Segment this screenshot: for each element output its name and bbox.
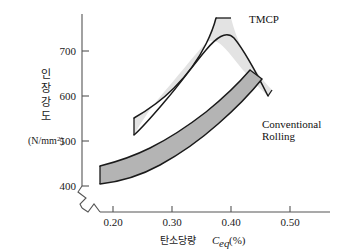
x-tick-label: 0.40 bbox=[221, 216, 241, 228]
y-axis-title-char-2: 강 bbox=[41, 96, 51, 109]
x-tick-label: 0.50 bbox=[280, 216, 300, 228]
tensile-strength-chart: 700 600 500 400 0.20 0.30 bbox=[0, 0, 341, 252]
chart-svg: 700 600 500 400 0.20 0.30 bbox=[0, 0, 341, 252]
y-axis-title-char-1: 장 bbox=[41, 82, 51, 95]
y-axis-title-char-3: 도 bbox=[41, 110, 51, 123]
y-tick-label: 600 bbox=[60, 90, 77, 102]
y-axis-unit-close: ) bbox=[60, 135, 63, 147]
series-label-tmcp: TMCP bbox=[249, 13, 279, 25]
series-label-conventional-line1: Conventional bbox=[262, 118, 321, 130]
y-tick-label: 700 bbox=[60, 45, 77, 57]
x-axis-title-ko: 탄소당량 bbox=[160, 235, 196, 246]
y-axis-title-char-0: 인 bbox=[41, 68, 51, 81]
y-tick-label: 400 bbox=[60, 180, 77, 192]
x-tick-label: 0.20 bbox=[103, 216, 123, 228]
y-axis-unit-main: (N/mm bbox=[28, 135, 57, 147]
x-axis-title-unit: (%) bbox=[229, 234, 246, 247]
series-label-conventional-line2: Rolling bbox=[262, 130, 296, 142]
x-tick-label: 0.30 bbox=[162, 216, 182, 228]
